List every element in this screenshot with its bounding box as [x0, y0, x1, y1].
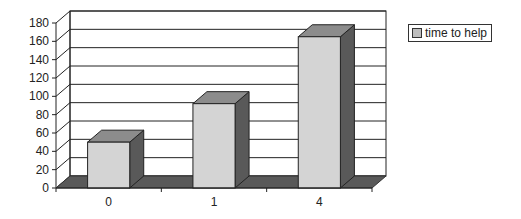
x-tick-label: 1 — [211, 195, 218, 209]
bar — [298, 37, 340, 188]
y-tick-label: 60 — [36, 126, 50, 140]
side-gridline — [56, 103, 70, 115]
legend-swatch — [412, 28, 422, 38]
y-tick-label: 120 — [29, 71, 49, 85]
side-gridline — [56, 84, 70, 96]
side-gridline — [56, 66, 70, 78]
y-tick-label: 100 — [29, 89, 49, 103]
side-gridline — [56, 11, 70, 23]
y-tick-label: 40 — [36, 144, 50, 158]
side-gridline — [56, 158, 70, 170]
y-tick-label: 0 — [42, 181, 49, 195]
y-tick-label: 180 — [29, 16, 49, 30]
y-tick-label: 160 — [29, 34, 49, 48]
side-gridline — [56, 29, 70, 41]
bar-side — [235, 92, 249, 188]
x-tick-label: 0 — [105, 195, 112, 209]
side-gridline — [56, 139, 70, 151]
side-gridline — [56, 48, 70, 60]
side-gridline — [56, 121, 70, 133]
x-tick-label: 4 — [316, 195, 323, 209]
bar — [193, 104, 235, 188]
bar — [88, 142, 130, 188]
y-tick-label: 20 — [36, 163, 50, 177]
y-tick-label: 80 — [36, 108, 50, 122]
y-tick-label: 140 — [29, 53, 49, 67]
legend-label: time to help — [425, 26, 487, 40]
legend: time to help — [408, 24, 492, 42]
bar-side — [340, 25, 354, 188]
